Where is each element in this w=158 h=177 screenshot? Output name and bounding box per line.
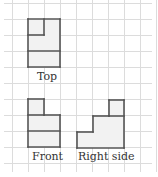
label-front: Front <box>32 151 63 162</box>
view-front <box>28 99 60 147</box>
label-top: Top <box>37 71 57 82</box>
view-right-side <box>77 100 124 148</box>
view-top <box>28 19 60 67</box>
label-right-side: Right side <box>78 151 135 162</box>
